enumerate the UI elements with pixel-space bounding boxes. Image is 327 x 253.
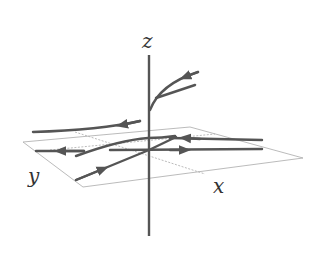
trajectory-right-upper [170, 138, 262, 140]
z-axis-label: z [141, 29, 153, 53]
trajectory-mid-curve [76, 136, 175, 156]
x-axis-label: x [213, 174, 224, 198]
phase-portrait-diagram: z x y [0, 0, 327, 253]
trajectory-left-long [33, 121, 140, 132]
y-axis-label: y [27, 164, 40, 188]
trajectories [33, 72, 262, 180]
xy-plane [23, 127, 303, 187]
